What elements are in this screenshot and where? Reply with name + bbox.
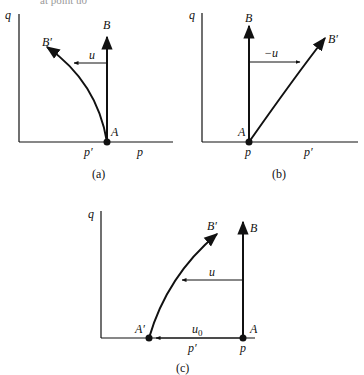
label-u: u [209,265,215,279]
panel-b: q B B′ −u A p p′ (b) [189,8,358,181]
label-minus-u: −u [264,46,278,60]
caption-c: (c) [176,361,189,375]
point-A-prime [146,335,153,342]
label-A: A [249,322,258,336]
label-A: A [110,125,119,139]
q-axis-label: q [189,8,195,22]
curve-AB-prime [47,47,107,142]
label-p: p [136,145,143,159]
curve-A-prime-B-prime [149,234,217,338]
label-A: A [237,125,246,139]
panel-a: q B B′ u A p′ p (a) [5,8,173,181]
point-A [104,139,111,146]
label-p: p [239,341,246,355]
label-B-prime: B′ [328,32,338,46]
label-p: p [244,145,251,159]
curve-AB-prime [249,38,325,142]
label-B-prime: B′ [207,219,217,233]
label-A-prime: A′ [134,322,145,336]
label-p-prime: p′ [187,341,197,355]
caption-b: (b) [272,167,286,181]
label-p-prime: p′ [83,145,93,159]
header-fragment: at point u0 [40,0,88,6]
label-u0: u0 [192,322,203,338]
panel-c: q B B′ u u0 A A′ p′ p (c) [88,207,258,375]
label-B-prime: B′ [42,35,52,49]
label-p-prime: p′ [303,145,313,159]
label-B: B [245,11,253,25]
label-B: B [250,221,258,235]
caption-a: (a) [92,167,105,181]
diagram-canvas: at point u0 q B B′ u A p′ p (a) q B B′ −… [0,0,364,375]
q-axis-label: q [5,8,11,22]
q-axis-label: q [88,207,94,221]
label-B: B [103,18,111,32]
label-u: u [89,48,95,62]
